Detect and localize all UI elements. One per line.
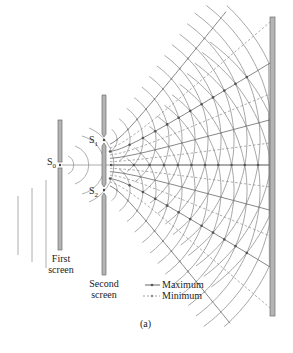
s1-label: S1: [89, 134, 98, 150]
first-screen: [58, 120, 62, 250]
slit-s0-dot: [59, 164, 61, 166]
slit-s1-dot: [103, 139, 105, 141]
second-screen: [102, 95, 106, 275]
legend-minimum-sample: [143, 295, 160, 297]
figure-caption: (a): [140, 318, 151, 329]
legend-maximum-label: Maximum: [162, 279, 204, 290]
s0-label: S0: [47, 156, 56, 172]
legend-minimum-label: Minimum: [162, 290, 202, 301]
plane-wavefronts: [18, 180, 46, 268]
viewing-screen: [270, 17, 275, 316]
first-screen-label: First screen: [46, 253, 76, 275]
double-slit-diagram: [0, 0, 293, 353]
maximum-lines: [110, 12, 270, 324]
slit-s2-dot: [103, 189, 105, 191]
legend-maximum-sample: [145, 284, 160, 287]
s2-label: S2: [89, 185, 98, 201]
second-screen-label: Second screen: [86, 278, 122, 300]
